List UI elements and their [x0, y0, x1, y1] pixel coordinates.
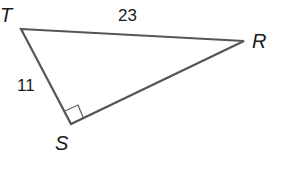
side-label-TR: 23 [118, 6, 137, 25]
vertex-label-T: T [0, 4, 14, 26]
right-angle-marker [65, 105, 83, 117]
triangle-TSR [21, 29, 244, 124]
vertex-label-S: S [55, 132, 69, 154]
side-label-TS: 11 [17, 76, 35, 95]
vertex-label-R: R [252, 30, 266, 52]
triangle-diagram: T R S 23 11 [0, 0, 282, 181]
